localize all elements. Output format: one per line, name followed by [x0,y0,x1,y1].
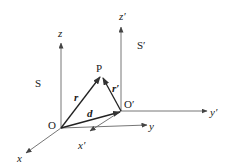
labels: S S′ z z′ P r r′ d O O′ y y′ x x′ [16,10,218,164]
x-axis [26,128,61,153]
y-prime-axis-label: y′ [209,106,218,118]
z-prime-axis-label: z′ [118,10,126,22]
frame-s-prime-label: S′ [137,39,146,51]
origin-o-label: O [48,119,56,131]
point-p-label: P [96,62,102,74]
origin-o-prime-label: O′ [124,98,134,110]
z-axis-label: z [57,27,63,39]
y-axis-label: y [148,120,154,132]
x-prime-axis [90,111,121,131]
reference-frames-diagram: S S′ z z′ P r r′ d O O′ y y′ x x′ [0,0,231,168]
y-axis [61,125,147,128]
x-prime-axis-label: x′ [77,139,86,151]
vector-r-label: r [74,91,79,103]
vector-r [61,77,100,128]
x-axis-label: x [16,152,22,164]
frame-s-label: S [35,77,41,89]
vector-r-prime-label: r′ [112,82,119,94]
vector-d-label: d [87,107,93,119]
